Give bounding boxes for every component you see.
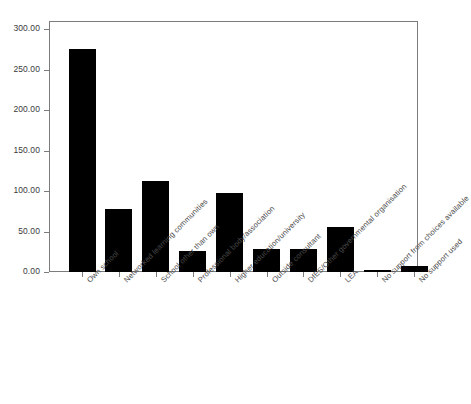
y-axis-tick-label: 300.00 xyxy=(13,23,40,33)
x-axis-tick-mark xyxy=(267,272,268,277)
x-axis-tick-mark xyxy=(414,272,415,277)
bars-container xyxy=(49,21,418,272)
x-axis-tick-mark xyxy=(156,272,157,277)
bar xyxy=(69,49,96,272)
x-axis-tick-mark xyxy=(119,272,120,277)
y-axis: 0.0050.00100.00150.00200.00250.00300.00 xyxy=(0,0,49,404)
y-axis-tick-label: 250.00 xyxy=(13,64,40,74)
x-axis-tick-mark xyxy=(303,272,304,277)
x-axis-tick-mark xyxy=(82,272,83,277)
y-axis-tick-label: 100.00 xyxy=(13,185,40,195)
y-axis-tick-label: 0.00 xyxy=(23,266,40,276)
y-axis-tick-label: 150.00 xyxy=(13,145,40,155)
x-axis-tick-mark xyxy=(340,272,341,277)
x-axis-labels: Own schoolNetworked learning communities… xyxy=(49,278,448,404)
x-axis-tick-mark xyxy=(377,272,378,277)
y-axis-tick-label: 200.00 xyxy=(13,104,40,114)
x-axis-tick-mark xyxy=(230,272,231,277)
x-axis-tick-mark xyxy=(193,272,194,277)
y-axis-tick-label: 50.00 xyxy=(18,226,40,236)
